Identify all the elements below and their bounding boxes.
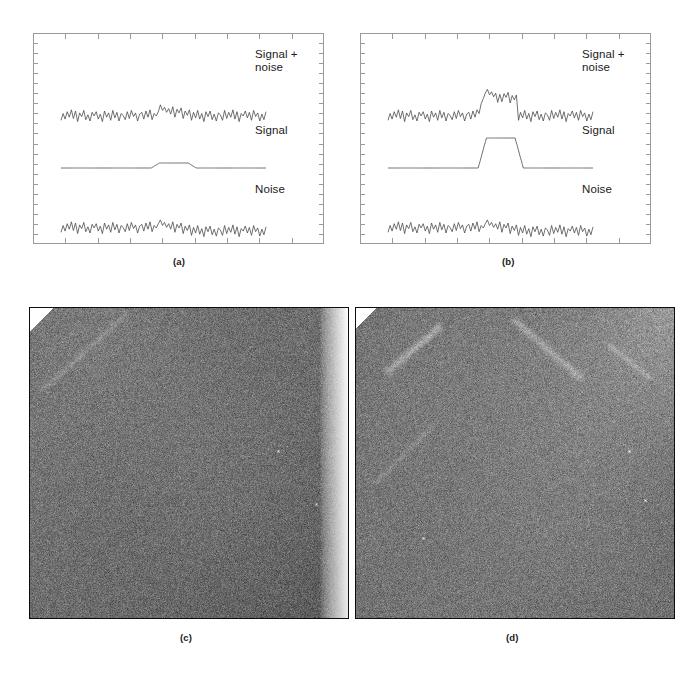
trace-panel-a: Signal + noise Signal Noise [33,33,324,244]
image-panel-d [355,307,675,619]
noise-image-c [30,308,348,618]
image-panel-c [29,307,349,619]
trace-signal-a [61,163,266,168]
label-noise-b: Noise [582,183,612,196]
label-signal-b: Signal [582,124,615,137]
label-signal-plus-noise-b: Signal + noise [582,48,625,74]
caption-d: (d) [506,632,519,643]
label-noise-a: Noise [255,183,285,196]
caption-c: (c) [180,632,192,643]
trace-noise-b [388,220,593,237]
trace-signal-plus-noise-a [61,105,266,122]
figure-root: Signal + noise Signal Noise Signal + noi… [0,0,682,675]
label-signal-plus-noise-a: Signal + noise [255,48,298,74]
trace-signal-plus-noise-b [388,89,593,121]
noise-image-d [356,308,674,618]
trace-signal-b [388,138,593,168]
label-signal-a: Signal [255,124,288,137]
caption-a: (a) [173,256,185,267]
caption-b: (b) [502,256,515,267]
trace-noise-a [61,220,266,237]
trace-panel-b: Signal + noise Signal Noise [360,33,651,244]
